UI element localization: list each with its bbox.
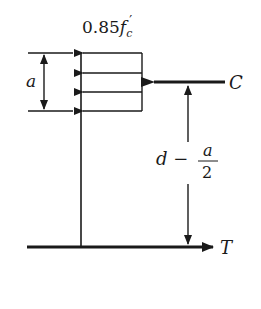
stress-block-diagram: 0.85fc′ a C d − a 2 T <box>0 0 261 309</box>
depth-label: a <box>26 71 36 91</box>
stress-label: 0.85fc′ <box>82 13 132 40</box>
lever-arm-label: d − a 2 <box>156 141 218 182</box>
stress-arrows <box>83 53 142 111</box>
svg-text:d −: d − <box>156 148 188 169</box>
tension-label: T <box>220 237 234 258</box>
svg-text:a: a <box>203 141 213 160</box>
compression-label: C <box>229 72 243 93</box>
svg-text:2: 2 <box>202 163 212 182</box>
